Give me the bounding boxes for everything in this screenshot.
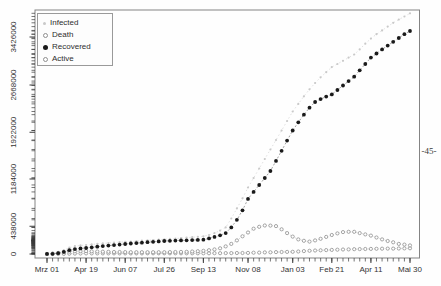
svg-text:Jul 26: Jul 26 bbox=[154, 265, 176, 274]
svg-text:Apr 11: Apr 11 bbox=[359, 265, 383, 274]
svg-text:Jan 03: Jan 03 bbox=[281, 265, 306, 274]
svg-text:1922000: 1922000 bbox=[9, 116, 18, 148]
death-circle-icon bbox=[43, 33, 48, 38]
legend-item-death: Death bbox=[42, 29, 112, 41]
svg-text:0: 0 bbox=[9, 251, 18, 256]
svg-text:Sep 13: Sep 13 bbox=[191, 265, 217, 274]
svg-text:2668000: 2668000 bbox=[9, 69, 18, 101]
svg-text:3426000: 3426000 bbox=[9, 21, 18, 53]
svg-text:Apr 19: Apr 19 bbox=[74, 265, 98, 274]
svg-text:Jun 07: Jun 07 bbox=[113, 265, 138, 274]
legend-item-active: Active bbox=[42, 53, 112, 65]
chart-legend: Infected Death Recovered Active bbox=[37, 13, 113, 66]
svg-text:Nov 08: Nov 08 bbox=[235, 265, 261, 274]
recovered-dot-icon bbox=[43, 45, 48, 50]
infected-dot-icon bbox=[43, 22, 46, 25]
active-circle-icon bbox=[43, 57, 48, 62]
svg-text:Feb 21: Feb 21 bbox=[319, 265, 344, 274]
svg-text:Mai 30: Mai 30 bbox=[398, 265, 423, 274]
page-number: -45- bbox=[418, 146, 440, 156]
svg-text:438000: 438000 bbox=[9, 212, 18, 239]
legend-label-infected: Infected bbox=[50, 17, 78, 29]
legend-label-death: Death bbox=[52, 29, 73, 41]
legend-label-recovered: Recovered bbox=[52, 41, 91, 53]
legend-item-recovered: Recovered bbox=[42, 41, 112, 53]
document-page: 04380001184000192200026680003426000Mrz 0… bbox=[0, 0, 441, 286]
legend-label-active: Active bbox=[52, 53, 74, 65]
svg-text:Mrz 01: Mrz 01 bbox=[35, 265, 60, 274]
svg-text:1184000: 1184000 bbox=[9, 163, 18, 194]
legend-item-infected: Infected bbox=[42, 17, 112, 29]
